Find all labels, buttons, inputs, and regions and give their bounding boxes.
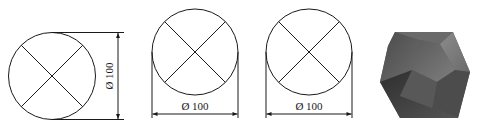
figure-circle-vertical-dim: Ø 100 [9, 33, 125, 120]
figure-circle-horizontal-dim-2: Ø 100 [266, 9, 352, 118]
figure-circle-horizontal-dim-1: Ø 100 [152, 9, 238, 118]
dimension-label-horizontal: Ø 100 [295, 100, 323, 112]
diagram-canvas: Ø 100 Ø 100 Ø 100 [0, 0, 477, 133]
dimension-label-vertical: Ø 100 [103, 62, 115, 90]
dimension-label-horizontal: Ø 100 [181, 100, 209, 112]
figure-polyhedron [380, 32, 470, 118]
